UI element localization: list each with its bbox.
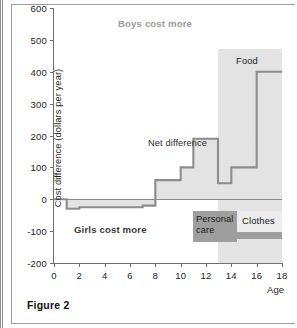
x-tick: [79, 263, 80, 267]
x-tick: [54, 263, 55, 267]
x-tick-label: 2: [77, 270, 82, 281]
y-tick-label: 400: [31, 66, 47, 77]
y-tick: [50, 8, 54, 9]
x-tick: [105, 263, 106, 267]
legend-label-personal-care: Personalcare: [196, 214, 238, 236]
y-tick-label: 600: [31, 3, 47, 14]
x-tick-label: 10: [175, 270, 186, 281]
y-tick: [50, 231, 54, 232]
annotation-boys-cost-more: Boys cost more: [118, 18, 192, 29]
y-tick-label: 300: [31, 98, 47, 109]
x-tick: [257, 263, 258, 267]
x-axis-line: [53, 263, 282, 264]
x-tick: [155, 263, 156, 267]
y-tick-label: -100: [27, 226, 47, 237]
x-tick: [282, 263, 283, 267]
y-tick-label: 100: [31, 162, 47, 173]
y-axis-title: Cost difference (dollars per year): [53, 69, 63, 208]
legend-label-clothes: Clothes: [242, 215, 275, 226]
legend-swatch-clothes-underline: [237, 232, 282, 239]
annotation-net-difference: Net difference: [148, 138, 207, 148]
x-tick-label: 18: [277, 270, 288, 281]
x-tick: [130, 263, 131, 267]
x-tick-label: 14: [226, 270, 237, 281]
x-tick-label: 0: [51, 270, 56, 281]
chart-plot-area: 600 500 400 300 200 100 0 -100 -200 0 2 …: [54, 8, 282, 263]
x-tick: [206, 263, 207, 267]
x-tick-label: 12: [201, 270, 212, 281]
x-tick-label: 16: [251, 270, 262, 281]
x-tick: [231, 263, 232, 267]
x-tick-label: 4: [102, 270, 107, 281]
figure-caption: Figure 2: [27, 299, 69, 311]
zero-baseline: [54, 199, 282, 200]
annotation-girls-cost-more: Girls cost more: [74, 224, 147, 235]
x-axis-title: Age: [267, 284, 284, 295]
x-tick-label: 8: [153, 270, 158, 281]
y-tick: [50, 40, 54, 41]
legend-label-food: Food: [236, 55, 258, 66]
x-tick: [181, 263, 182, 267]
figure-frame: 600 500 400 300 200 100 0 -100 -200 0 2 …: [0, 0, 297, 328]
y-tick-label: 0: [42, 194, 47, 205]
y-tick-label: 500: [31, 34, 47, 45]
y-tick-label: 200: [31, 130, 47, 141]
y-tick-label: -200: [27, 258, 47, 269]
x-tick-label: 6: [127, 270, 132, 281]
